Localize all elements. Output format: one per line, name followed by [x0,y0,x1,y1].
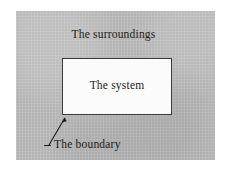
surroundings-label: The surroundings [0,28,227,40]
boundary-label: The boundary [54,138,121,150]
figure-canvas: The surroundings The system The boundary [0,0,227,170]
system-label: The system [62,79,172,91]
